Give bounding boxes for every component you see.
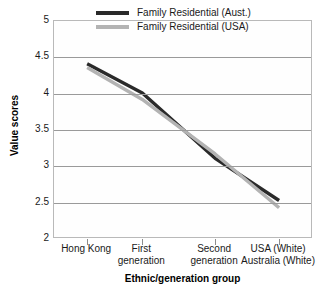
y-axis-tick-label: 2.5 (23, 197, 49, 207)
gridline (54, 57, 311, 58)
y-axis-tick-label: 5 (23, 15, 49, 25)
legend-label: Family Residential (USA) (137, 21, 249, 32)
y-axis-tick-label: 3 (23, 160, 49, 170)
legend-item: Family Residential (USA) (96, 20, 251, 33)
x-axis-tick-label: USA (White) Australia (White) (230, 243, 325, 266)
x-axis-title: Ethnic/generation group (53, 273, 312, 284)
gridline (54, 130, 311, 131)
y-axis-tick-label: 2 (23, 233, 49, 243)
legend-swatch-icon (96, 25, 129, 29)
legend-swatch-icon (96, 11, 129, 15)
legend-item: Family Residential (Aust.) (96, 6, 251, 19)
plot-area (53, 20, 312, 238)
y-axis-tick-label: 4 (23, 88, 49, 98)
gridline (54, 94, 311, 95)
y-axis-tick-label: 3.5 (23, 124, 49, 134)
gridline (54, 166, 311, 167)
y-axis-tick-label: 4.5 (23, 51, 49, 61)
line-chart: Value scores 22.533.544.55 Hong KongFirs… (0, 0, 325, 293)
chart-legend: Family Residential (Aust.)Family Residen… (96, 6, 251, 33)
x-axis-tick-labels: Hong KongFirst generationSecond generati… (40, 243, 325, 277)
legend-label: Family Residential (Aust.) (137, 7, 251, 18)
gridline (54, 203, 311, 204)
series-line-usa (87, 68, 279, 208)
